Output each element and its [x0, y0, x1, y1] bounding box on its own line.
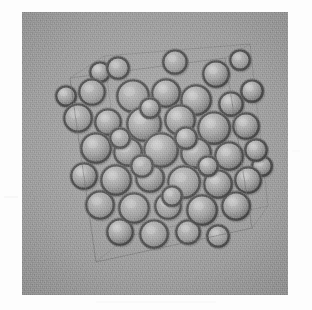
scan-scuff-left	[4, 196, 18, 198]
scan-scuff-bottom	[96, 301, 216, 303]
sphere	[63, 103, 95, 135]
sphere-packing-scene	[22, 12, 288, 295]
scan-scuff-right	[292, 150, 300, 152]
sphere	[162, 49, 190, 77]
figure-page	[0, 0, 312, 310]
sphere	[202, 60, 232, 90]
sphere	[229, 49, 253, 73]
sphere	[130, 154, 156, 180]
sphere-group	[55, 49, 275, 251]
render-panel	[22, 12, 288, 295]
sphere	[70, 162, 100, 192]
